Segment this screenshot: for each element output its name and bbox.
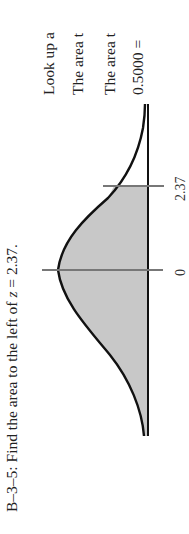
tick-label-zero: 0 (173, 269, 189, 276)
tick-label-2-37: 2.37 (173, 177, 189, 202)
normal-curve-figure (0, 0, 189, 534)
